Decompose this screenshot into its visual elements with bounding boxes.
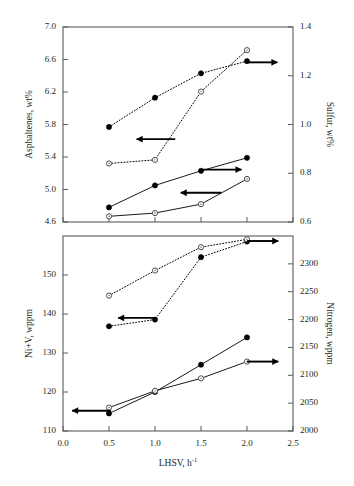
series-line-nivplus-filled-solid	[109, 337, 247, 413]
chart-canvas: 4.65.05.45.86.26.67.00.60.81.01.21.4Asph…	[0, 0, 354, 486]
arrow-head-right	[272, 238, 279, 245]
xtick-label: 2.0	[241, 438, 253, 448]
annotation-arrow-to-right-axis-nitrogen	[247, 238, 279, 245]
ytick-label-left-bottom: 130	[43, 347, 57, 357]
marker-open-center-nitrogen-open-dotted	[154, 270, 155, 271]
ytick-label-left-top: 5.0	[45, 184, 57, 194]
axis-title-left-bottom: Ni+V, wppm	[24, 308, 34, 358]
xtick-label: 0.5	[103, 438, 115, 448]
marker-filled-sulfur-filled-dotted	[106, 124, 111, 129]
marker-filled-asphaltenes-filled-solid	[106, 205, 111, 210]
ytick-label-right-bottom: 2000	[300, 425, 319, 435]
series-line-asphaltenes-filled-solid	[109, 158, 247, 208]
series-line-sulfur-open-dotted	[109, 50, 247, 163]
marker-open-center-asphaltenes-open-solid	[246, 178, 247, 179]
annotation-arrow-to-left-axis-sulfur-group	[136, 136, 175, 143]
ytick-label-left-top: 6.6	[45, 54, 57, 64]
ytick-label-right-top: 0.8	[300, 167, 312, 177]
arrow-head-right	[272, 358, 279, 365]
marker-filled-asphaltenes-filled-solid	[244, 155, 249, 160]
series-line-sulfur-filled-dotted	[109, 61, 247, 127]
series-line-nitrogen-open-dotted	[109, 239, 247, 295]
marker-open-center-nivplus-open-solid	[154, 390, 155, 391]
marker-open-center-nivplus-open-solid	[200, 378, 201, 379]
ytick-label-left-bottom: 140	[43, 308, 57, 318]
ytick-label-right-top: 1.0	[300, 119, 312, 129]
marker-filled-nitrogen-filled-dotted	[198, 255, 203, 260]
ytick-label-left-top: 4.6	[45, 216, 57, 226]
marker-filled-nivplus-filled-solid	[198, 362, 203, 367]
annotation-arrow-to-right-axis-niv	[247, 358, 279, 365]
marker-filled-nivplus-filled-solid	[244, 335, 249, 340]
x-axis-title: LHSV, h-1	[159, 456, 198, 468]
marker-open-center-asphaltenes-open-solid	[200, 203, 201, 204]
ytick-label-right-top: 1.2	[300, 70, 311, 80]
ytick-label-right-bottom: 2250	[300, 286, 319, 296]
annotation-arrow-to-right-axis-sulfur	[249, 59, 278, 66]
ytick-label-right-bottom: 2200	[300, 314, 319, 324]
arrow-head-left	[180, 189, 187, 196]
marker-open-center-sulfur-open-dotted	[108, 163, 109, 164]
marker-open-center-nitrogen-open-dotted	[200, 246, 201, 247]
ytick-label-right-bottom: 2150	[300, 341, 319, 351]
arrow-head-right	[235, 166, 242, 173]
marker-open-center-nitrogen-open-dotted	[108, 295, 109, 296]
ytick-label-right-bottom: 2050	[300, 397, 319, 407]
marker-open-center-asphaltenes-open-solid	[154, 212, 155, 213]
ytick-label-left-top: 7.0	[45, 21, 57, 31]
ytick-label-left-top: 5.4	[45, 151, 57, 161]
marker-filled-sulfur-filled-dotted	[198, 71, 203, 76]
ytick-label-left-top: 6.2	[45, 86, 56, 96]
ytick-label-right-top: 1.4	[300, 21, 312, 31]
series-line-nivplus-open-solid	[109, 362, 247, 408]
arrow-head-right	[271, 59, 278, 66]
ytick-label-left-bottom: 120	[43, 386, 57, 396]
ytick-label-left-top: 5.8	[45, 119, 57, 129]
marker-filled-sulfur-filled-dotted	[152, 95, 157, 100]
axis-title-left-top: Asphaltenes, wt%	[24, 90, 34, 159]
marker-filled-asphaltenes-filled-solid	[152, 183, 157, 188]
ytick-label-right-bottom: 2300	[300, 258, 319, 268]
figure-root: 4.65.05.45.86.26.67.00.60.81.01.21.4Asph…	[0, 0, 354, 486]
plot-frame-top	[63, 27, 293, 222]
xtick-label: 1.5	[195, 438, 207, 448]
marker-filled-sulfur-filled-dotted	[244, 59, 249, 64]
marker-open-center-nitrogen-open-dotted	[246, 239, 247, 240]
xtick-label: 0.0	[57, 438, 69, 448]
xtick-label: 1.0	[149, 438, 161, 448]
marker-open-center-asphaltenes-open-solid	[108, 216, 109, 217]
axis-title-right-bottom: Nitrogen, wppm	[325, 302, 335, 365]
arrow-head-left	[72, 407, 79, 414]
marker-filled-nitrogen-filled-dotted	[106, 324, 111, 329]
annotation-arrow-to-left-axis-niv	[72, 407, 111, 414]
annotation-arrow-to-left-axis-asphaltenes	[180, 189, 221, 196]
ytick-label-left-bottom: 110	[43, 425, 57, 435]
ytick-label-right-bottom: 2100	[300, 369, 319, 379]
marker-open-center-sulfur-open-dotted	[246, 49, 247, 50]
arrow-head-left	[136, 136, 143, 143]
arrow-head-left	[118, 315, 125, 322]
ytick-label-right-top: 0.6	[300, 216, 312, 226]
marker-open-center-nivplus-open-solid	[108, 407, 109, 408]
xtick-label: 2.5	[287, 438, 299, 448]
annotation-arrow-to-right-axis-asphaltenes	[201, 166, 242, 173]
axis-title-right-top: Sulfur, wt%	[325, 102, 335, 148]
ytick-label-left-bottom: 150	[43, 269, 57, 279]
plot-frame-bottom	[63, 236, 293, 431]
marker-open-center-sulfur-open-dotted	[200, 91, 201, 92]
marker-open-center-sulfur-open-dotted	[154, 159, 155, 160]
